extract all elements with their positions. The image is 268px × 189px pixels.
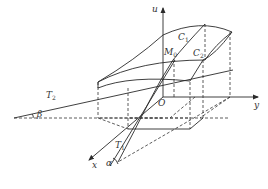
curve-c1 bbox=[118, 24, 205, 162]
y-axis-label: y bbox=[253, 100, 260, 110]
t1-label: T1 bbox=[115, 140, 125, 151]
surface-diagram-svg: u y x O C1 C2 M0 T2 T1 β α bbox=[0, 0, 268, 189]
tangent-t1 bbox=[110, 60, 175, 166]
m0-label: M0 bbox=[163, 47, 177, 58]
x-axis-label: x bbox=[92, 160, 97, 170]
t2-label: T2 bbox=[46, 90, 56, 101]
x-axis bbox=[89, 97, 163, 160]
curve-c2 bbox=[205, 32, 232, 60]
vertical-projections bbox=[98, 24, 230, 129]
c1-label: C1 bbox=[178, 32, 189, 43]
origin-label: O bbox=[158, 98, 166, 108]
c2-label: C2 bbox=[193, 48, 204, 59]
u-axis-label: u bbox=[152, 4, 158, 14]
beta-label: β bbox=[36, 109, 42, 119]
diagram-canvas: u y x O C1 C2 M0 T2 T1 β α bbox=[0, 0, 268, 189]
alpha-label: α bbox=[106, 158, 112, 168]
